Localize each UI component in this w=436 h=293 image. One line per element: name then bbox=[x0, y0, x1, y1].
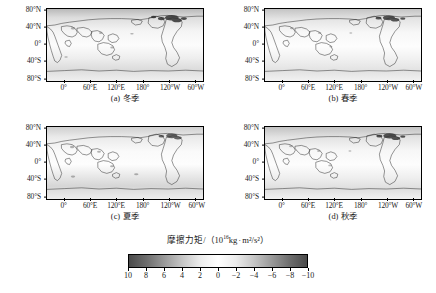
colorbar-title-unit: m²/s²） bbox=[242, 235, 269, 245]
world-map-b bbox=[265, 9, 421, 81]
x-tick-label: 180° bbox=[354, 84, 367, 91]
x-tick-label: 60°E bbox=[83, 84, 97, 91]
colorbar-tick-labels: 1086420−2−4−6−8−10 bbox=[128, 271, 308, 283]
y-tick-label: 0° bbox=[35, 41, 41, 48]
colorbar-tick-label: −4 bbox=[250, 271, 259, 280]
map-plot-area-d bbox=[264, 126, 422, 200]
y-tick-label: 80°N bbox=[244, 124, 259, 131]
world-map-c bbox=[47, 127, 203, 199]
panel-index-label: (c) bbox=[111, 212, 120, 221]
y-tick-label: 0° bbox=[253, 159, 259, 166]
colorbar-tick-label: −6 bbox=[268, 271, 277, 280]
y-tick-label: 80°N bbox=[244, 6, 259, 13]
colorbar-title: 摩擦力矩/（1016kg·m²/s²） bbox=[0, 232, 436, 246]
x-tick-label: 120°E bbox=[325, 84, 343, 91]
panel-c-y-axis: 80°N 40°N 0° 40°S 80°S bbox=[8, 126, 44, 200]
panel-index-label: (a) bbox=[111, 94, 120, 103]
y-tick-label: 40°S bbox=[27, 176, 41, 183]
panel-d-y-axis: 80°N 40°N 0° 40°S 80°S bbox=[226, 126, 262, 200]
colorbar-tick-label: 0 bbox=[216, 271, 220, 280]
panel-a-caption: (a)冬季 bbox=[46, 94, 204, 104]
x-tick-label: 120°W bbox=[160, 202, 180, 209]
y-tick-label: 80°S bbox=[245, 75, 259, 82]
colorbar-tick-label: 6 bbox=[162, 271, 166, 280]
x-tick-label: 120°W bbox=[160, 84, 180, 91]
seasonal-friction-torque-figure: 80°N 40°N 0° 40°S 80°S bbox=[0, 0, 436, 293]
x-tick-label: 60°E bbox=[301, 84, 315, 91]
y-tick-label: 40°N bbox=[244, 23, 259, 30]
y-tick-label: 40°N bbox=[26, 141, 41, 148]
y-tick-label: 40°N bbox=[26, 23, 41, 30]
y-tick-label: 0° bbox=[35, 159, 41, 166]
y-tick-label: 80°N bbox=[26, 6, 41, 13]
colorbar-tick-label: 8 bbox=[144, 271, 148, 280]
x-tick-label: 60°E bbox=[301, 202, 315, 209]
panel-a-y-axis: 80°N 40°N 0° 40°S 80°S bbox=[8, 8, 44, 82]
x-tick-label: 180° bbox=[354, 202, 367, 209]
colorbar-tick-label: 4 bbox=[180, 271, 184, 280]
colorbar-tick-label: −10 bbox=[302, 271, 315, 280]
panel-d-caption: (d)秋季 bbox=[264, 212, 422, 222]
x-tick-label: 60°E bbox=[83, 202, 97, 209]
y-tick-label: 40°N bbox=[244, 141, 259, 148]
world-map-d bbox=[265, 127, 421, 199]
panel-c-caption: (c)夏季 bbox=[46, 212, 204, 222]
panel-index-label: (d) bbox=[329, 212, 339, 221]
panel-b-y-axis: 80°N 40°N 0° 40°S 80°S bbox=[226, 8, 262, 82]
panel-caption-text: 夏季 bbox=[123, 212, 139, 221]
map-plot-area-a bbox=[46, 8, 204, 82]
panel-index-label: (b) bbox=[329, 94, 339, 103]
y-tick-label: 40°S bbox=[245, 176, 259, 183]
x-tick-label: 120°E bbox=[325, 202, 343, 209]
x-tick-label: 180° bbox=[136, 84, 149, 91]
y-tick-label: 80°S bbox=[27, 75, 41, 82]
colorbar-tick-label: 10 bbox=[124, 271, 132, 280]
x-tick-label: 120°E bbox=[107, 202, 125, 209]
x-tick-label: 0° bbox=[60, 84, 66, 91]
x-tick-label: 120°E bbox=[107, 84, 125, 91]
colorbar-tick-label: −2 bbox=[232, 271, 241, 280]
map-plot-area-c bbox=[46, 126, 204, 200]
x-tick-label: 60°W bbox=[188, 84, 205, 91]
world-map-a bbox=[47, 9, 203, 81]
colorbar-tick-label: −8 bbox=[286, 271, 295, 280]
colorbar: 1086420−2−4−6−8−10 bbox=[128, 254, 308, 268]
x-tick-label: 60°W bbox=[189, 202, 206, 209]
colorbar-gradient bbox=[128, 254, 308, 268]
y-tick-label: 80°N bbox=[26, 124, 41, 131]
x-tick-label: 0° bbox=[278, 84, 284, 91]
colorbar-title-main: 摩擦力矩/（10 bbox=[167, 235, 223, 245]
panel-caption-text: 秋季 bbox=[341, 212, 357, 221]
x-tick-label: 0° bbox=[278, 202, 284, 209]
x-tick-label: 180° bbox=[136, 202, 149, 209]
panel-b-caption: (b)春季 bbox=[264, 94, 422, 104]
panel-caption-text: 冬季 bbox=[123, 94, 139, 103]
x-tick-label: 120°W bbox=[378, 202, 398, 209]
y-tick-label: 0° bbox=[253, 41, 259, 48]
x-tick-label: 60°W bbox=[406, 202, 423, 209]
x-tick-label: 60°W bbox=[406, 84, 423, 91]
x-tick-label: 120°W bbox=[378, 84, 398, 91]
x-tick-label: 0° bbox=[60, 202, 66, 209]
y-tick-label: 40°S bbox=[245, 58, 259, 65]
map-plot-area-b bbox=[264, 8, 422, 82]
colorbar-tick-label: 2 bbox=[198, 271, 202, 280]
y-tick-label: 80°S bbox=[245, 193, 259, 200]
y-tick-label: 80°S bbox=[27, 193, 41, 200]
y-tick-label: 40°S bbox=[27, 58, 41, 65]
panel-caption-text: 春季 bbox=[341, 94, 357, 103]
